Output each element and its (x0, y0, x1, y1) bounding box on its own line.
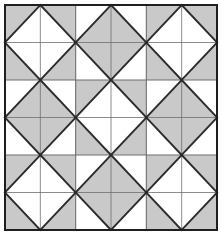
diamond-checkerboard-figure: Diamond-in-square checkerboard tiling A … (0, 0, 222, 235)
figure-root: Diamond-in-square checkerboard tiling A … (0, 0, 222, 235)
